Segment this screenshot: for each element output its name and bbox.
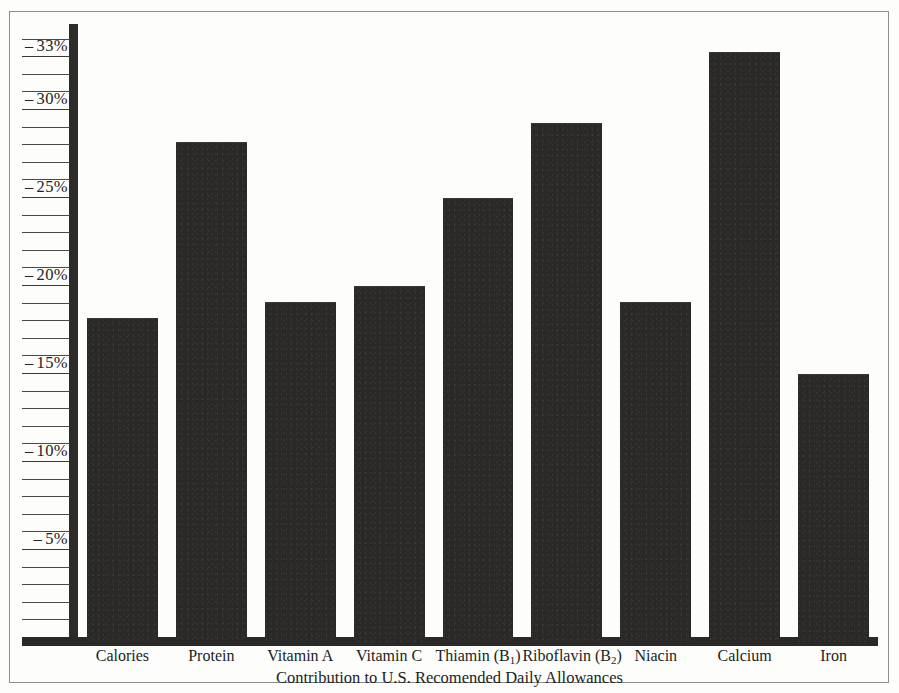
y-tick-label-33: –33%: [14, 36, 68, 56]
y-tick-9: [22, 479, 70, 480]
y-tick-33: [22, 56, 70, 57]
bar: [620, 302, 691, 643]
chart-figure: –33%–30%–25%–20%–15%–10%–5% CaloriesProt…: [0, 0, 899, 693]
y-tick-label-15: –15%: [14, 353, 68, 373]
y-tick-2: [22, 602, 70, 603]
y-tick-27: [22, 162, 70, 163]
y-axis-rail: [69, 24, 78, 643]
bar-slot: [798, 30, 869, 643]
tick-dash-icon: –: [25, 265, 34, 284]
y-tick-5: [22, 549, 70, 550]
x-axis-label: Iron: [789, 647, 878, 665]
y-tick-1: [22, 619, 70, 620]
y-tick-24: [22, 215, 70, 216]
bar-slot: [87, 30, 158, 643]
x-axis-label: Vitamin A: [256, 647, 345, 665]
chart-caption: Contribution to U.S. Recomended Daily Al…: [0, 668, 899, 688]
tick-dash-icon: –: [25, 441, 34, 460]
bar-slot: [176, 30, 247, 643]
bar-slot: [265, 30, 336, 643]
bar: [798, 374, 869, 643]
x-axis-label: Calcium: [700, 647, 789, 665]
tick-dash-icon: –: [25, 89, 34, 108]
y-tick-12: [22, 426, 70, 427]
bar: [176, 142, 247, 643]
y-tick-8: [22, 496, 70, 497]
tick-dash-icon: –: [25, 177, 34, 196]
tick-dash-icon: –: [34, 529, 43, 548]
y-tick-25: [22, 197, 70, 198]
tick-dash-icon: –: [25, 36, 34, 55]
bar-slot: [443, 30, 514, 643]
tick-dash-icon: –: [25, 353, 34, 372]
x-axis-label: Protein: [167, 647, 256, 665]
y-tick-3: [22, 584, 70, 585]
bar: [265, 302, 336, 643]
y-tick-13: [22, 408, 70, 409]
y-tick-23: [22, 232, 70, 233]
y-tick-label-5: –5%: [14, 529, 68, 549]
bar: [531, 123, 602, 643]
y-tick-22: [22, 250, 70, 251]
x-axis-label: Riboflavin (B2): [522, 647, 611, 665]
y-tick-17: [22, 338, 70, 339]
y-tick-10: [22, 461, 70, 462]
y-tick-label-25: –25%: [14, 177, 68, 197]
bar-slot: [531, 30, 602, 643]
bar-series: [78, 24, 878, 643]
bar-slot: [354, 30, 425, 643]
y-tick-15: [22, 373, 70, 374]
plot-area: –33%–30%–25%–20%–15%–10%–5% CaloriesProt…: [0, 0, 899, 693]
bar-slot: [620, 30, 691, 643]
y-tick-4: [22, 567, 70, 568]
bar: [87, 318, 158, 643]
x-axis-label: Calories: [78, 647, 167, 665]
bar-slot: [709, 30, 780, 643]
y-tick-7: [22, 514, 70, 515]
y-tick-29: [22, 127, 70, 128]
x-axis-label: Thiamin (B1): [434, 647, 523, 665]
bar: [709, 52, 780, 643]
y-tick-18: [22, 320, 70, 321]
y-tick-20: [22, 285, 70, 286]
bar: [443, 198, 514, 643]
x-axis-label: Niacin: [611, 647, 700, 665]
y-tick-32: [22, 74, 70, 75]
y-tick-19: [22, 303, 70, 304]
y-tick-14: [22, 391, 70, 392]
y-tick-label-30: –30%: [14, 89, 68, 109]
bar: [354, 286, 425, 643]
x-axis-label: Vitamin C: [345, 647, 434, 665]
y-tick-label-20: –20%: [14, 265, 68, 285]
y-tick-28: [22, 144, 70, 145]
y-tick-label-10: –10%: [14, 441, 68, 461]
label-subscript: 1: [510, 654, 516, 666]
y-tick-30: [22, 109, 70, 110]
